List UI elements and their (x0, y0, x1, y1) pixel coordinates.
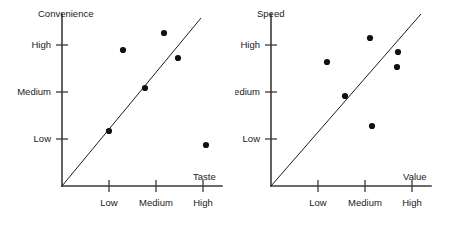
data-point (175, 55, 181, 61)
two-panel-scatter-figure: Convenience Taste High Medium Low Low Me… (0, 0, 471, 225)
data-point (367, 35, 373, 41)
reference-diagonal-left (62, 18, 201, 186)
y-tick-label-medium-right: Medium (235, 86, 260, 97)
x-tick-label-low-left: Low (100, 197, 118, 208)
data-point (342, 93, 348, 99)
data-points-left (106, 30, 209, 148)
y-tick-label-low-left: Low (34, 133, 52, 144)
data-point (395, 49, 401, 55)
data-point (120, 47, 126, 53)
x-tick-label-low-right: Low (309, 197, 327, 208)
y-tick-label-high-left: High (31, 39, 51, 50)
data-point (394, 64, 400, 70)
x-tick-label-high-left: High (193, 197, 213, 208)
data-point (161, 30, 167, 36)
y-axis-title-right: Speed (257, 8, 284, 19)
x-axis-title-left: Taste (193, 171, 216, 182)
x-tick-label-medium-left: Medium (139, 197, 173, 208)
chart-canvas-left: Convenience Taste High Medium Low Low Me… (0, 0, 236, 225)
data-point (142, 85, 148, 91)
data-point (203, 142, 209, 148)
data-point (324, 59, 330, 65)
x-tick-label-high-right: High (402, 197, 422, 208)
data-points-right (324, 35, 401, 129)
reference-diagonal-right (271, 14, 421, 186)
x-tick-label-medium-right: Medium (348, 197, 382, 208)
x-axis-title-right: Value (403, 171, 427, 182)
chart-panel-speed-value: Speed Value High Medium Low Low Medium H… (235, 0, 471, 225)
chart-panel-convenience-taste: Convenience Taste High Medium Low Low Me… (0, 0, 236, 225)
y-tick-label-low-right: Low (243, 133, 261, 144)
y-tick-label-medium-left: Medium (17, 86, 51, 97)
data-point (106, 128, 112, 134)
chart-canvas-right: Speed Value High Medium Low Low Medium H… (235, 0, 471, 225)
y-axis-title-left: Convenience (38, 8, 93, 19)
data-point (369, 123, 375, 129)
y-tick-label-high-right: High (240, 39, 260, 50)
